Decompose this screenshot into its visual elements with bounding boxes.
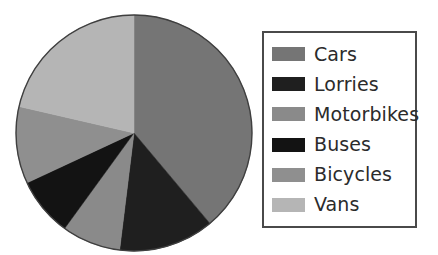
- legend-item-bicycles[interactable]: Bicycles: [264, 161, 415, 189]
- legend-swatch-vans: [272, 198, 305, 212]
- legend-label: Bicycles: [314, 165, 392, 184]
- legend-swatch-motorbikes: [272, 107, 305, 121]
- pie-chart-svg: [0, 0, 258, 255]
- legend-label: Vans: [314, 195, 360, 214]
- legend-label: Buses: [314, 135, 371, 154]
- legend-label: Lorries: [314, 75, 379, 94]
- legend-swatch-bicycles: [272, 168, 305, 182]
- legend-item-motorbikes[interactable]: Motorbikes: [264, 100, 415, 128]
- chart-legend: CarsLorriesMotorbikesBusesBicyclesVans: [262, 31, 417, 228]
- legend-label: Cars: [314, 45, 357, 64]
- pie-slice-group: [16, 15, 252, 251]
- pie-chart-screenshot: CarsLorriesMotorbikesBusesBicyclesVans: [0, 0, 438, 255]
- legend-item-buses[interactable]: Buses: [264, 131, 415, 159]
- pie-chart: [0, 0, 258, 255]
- legend-label: Motorbikes: [314, 105, 419, 124]
- legend-swatch-cars: [272, 47, 305, 61]
- legend-swatch-lorries: [272, 77, 305, 91]
- legend-item-vans[interactable]: Vans: [264, 191, 415, 219]
- legend-swatch-buses: [272, 138, 305, 152]
- legend-item-lorries[interactable]: Lorries: [264, 70, 415, 98]
- legend-item-cars[interactable]: Cars: [264, 40, 415, 68]
